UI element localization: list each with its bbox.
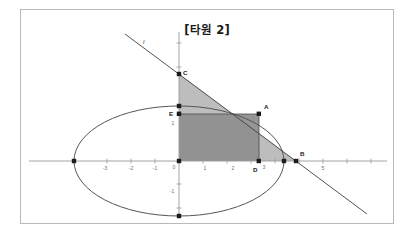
rectangle-ODAE-shape [179, 114, 259, 161]
point-A[interactable] [257, 112, 261, 116]
point-label-E: E [169, 110, 173, 117]
x-tick-label-2: 2 [232, 165, 235, 171]
y-tick-label-1: 1 [172, 120, 175, 126]
point-D[interactable] [257, 159, 261, 163]
point-B[interactable] [294, 159, 298, 163]
figure-frame: [타원 2] [20, 9, 394, 224]
x-tick-label-neg1: -1 [153, 165, 158, 171]
line-label-l: l [143, 39, 145, 45]
y-tick-label-neg1: -1 [170, 188, 175, 194]
point-label-A: A [264, 103, 269, 110]
x-tick-label-3: 3 [263, 164, 266, 170]
point-C[interactable] [177, 72, 181, 76]
point-ellipse-right-vertex[interactable] [282, 159, 286, 163]
x-tick-label-neg3: -3 [103, 165, 108, 171]
point-label-C: C [183, 69, 188, 76]
point-label-D: D [253, 166, 258, 173]
x-tick-label-neg2: -2 [129, 165, 134, 171]
point-E[interactable] [177, 112, 181, 116]
x-tick-label-1: 1 [204, 165, 207, 171]
point-ellipse-bottom-vertex[interactable] [177, 214, 181, 218]
point-label-B: B [300, 150, 305, 157]
line-l [125, 34, 367, 214]
x-tick-label-5: 5 [322, 165, 325, 171]
point-ellipse-left-vertex[interactable] [72, 159, 76, 163]
screenshot-root: [타원 2] [0, 0, 415, 237]
point-origin[interactable] [177, 159, 181, 163]
point-ellipse-top-vertex[interactable] [177, 104, 181, 108]
origin-label: 0 [173, 164, 176, 170]
geometry-plot: A B C D E l -3 -2 -1 1 2 3 5 1 -1 0 [21, 10, 394, 224]
